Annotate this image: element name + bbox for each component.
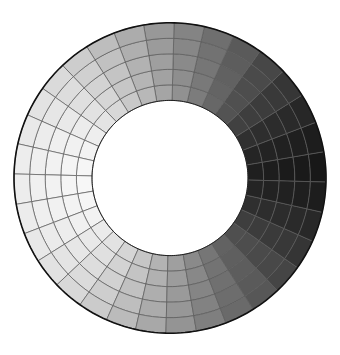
- mesh-cell: [173, 54, 198, 72]
- mesh-cell: [293, 154, 310, 181]
- mesh-cell: [61, 154, 79, 176]
- mesh-cell: [247, 162, 264, 180]
- mesh-cell: [168, 254, 186, 271]
- mesh-cell: [278, 157, 295, 181]
- mesh-cell: [146, 269, 168, 287]
- mesh-cell: [149, 254, 168, 271]
- mesh-cell: [166, 300, 193, 317]
- mesh-cell: [30, 174, 47, 201]
- mesh-cell: [76, 176, 93, 194]
- mesh-cell: [167, 285, 191, 302]
- mesh-cell: [149, 54, 173, 71]
- mesh-cell: [277, 181, 295, 206]
- mesh-cell: [61, 175, 78, 196]
- mesh-cell: [14, 174, 32, 204]
- polar-annulus-mesh-chart: [0, 0, 340, 355]
- mesh-cell: [261, 180, 279, 202]
- mesh-cell: [146, 38, 173, 55]
- mesh-cell: [262, 160, 279, 181]
- mesh-cell: [308, 152, 326, 182]
- mesh-cell: [166, 316, 197, 334]
- mesh-cell: [45, 151, 63, 176]
- mesh-cell: [152, 69, 173, 86]
- mesh-cell: [142, 284, 167, 302]
- mesh-cell: [154, 85, 172, 102]
- mesh-cell: [76, 157, 93, 176]
- figure-canvas: [0, 0, 340, 355]
- mesh-cell: [144, 23, 175, 41]
- mesh-cell: [167, 270, 188, 287]
- mesh-cell: [172, 69, 194, 87]
- mesh-cell: [246, 180, 263, 199]
- mesh-cell: [45, 175, 62, 199]
- mesh-cell: [172, 85, 191, 102]
